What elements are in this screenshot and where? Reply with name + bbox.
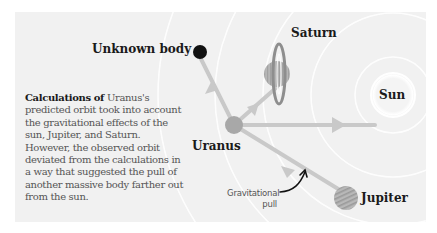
uranus-label: Uranus	[192, 139, 241, 153]
jupiter-icon	[334, 186, 358, 210]
saturn-label: Saturn	[291, 26, 337, 40]
unknown-body-label: Unknown body	[92, 42, 191, 56]
jupiter-label: Jupiter	[361, 191, 408, 205]
sun-label: Sun	[379, 88, 405, 102]
gravitational-pull-line2: pull	[227, 199, 277, 210]
unknown-body-icon	[193, 45, 207, 59]
uranus-icon	[225, 116, 243, 134]
gravitational-pull-note: Gravitational pull	[227, 188, 277, 209]
caption-text: Calculations of Uranus's predicted orbit…	[25, 92, 185, 204]
gravitational-pull-line1: Gravitational	[227, 188, 277, 199]
caption-body: Uranus's predicted orbit took into accou…	[25, 92, 183, 202]
caption-lead: Calculations of	[25, 92, 104, 103]
diagram-panel: Unknown body Saturn Sun Uranus Jupiter G…	[15, 12, 426, 222]
